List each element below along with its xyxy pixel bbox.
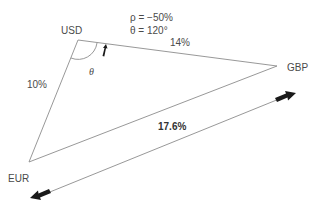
edge-usd-eur xyxy=(29,40,78,162)
theta-value-label: θ = 120° xyxy=(130,26,168,36)
node-label-gbp: GBP xyxy=(287,63,308,73)
arrow-head-left-icon xyxy=(30,189,51,200)
double-arrow-line xyxy=(40,97,284,196)
edge-eur-gbp xyxy=(29,66,277,162)
rho-label: ρ = −50% xyxy=(130,13,173,23)
edge-label-eur-gbp: 17.6% xyxy=(158,122,186,132)
edge-label-usd-gbp: 14% xyxy=(170,38,190,48)
angle-arc xyxy=(71,43,97,59)
node-label-usd: USD xyxy=(61,26,82,36)
triangle xyxy=(29,40,284,196)
edge-label-usd-eur: 10% xyxy=(27,80,47,90)
node-label-eur: EUR xyxy=(8,174,29,184)
angle-arrow-icon xyxy=(103,44,108,57)
theta-angle-label: θ xyxy=(89,67,94,77)
arrow-head-right-icon xyxy=(275,91,296,102)
